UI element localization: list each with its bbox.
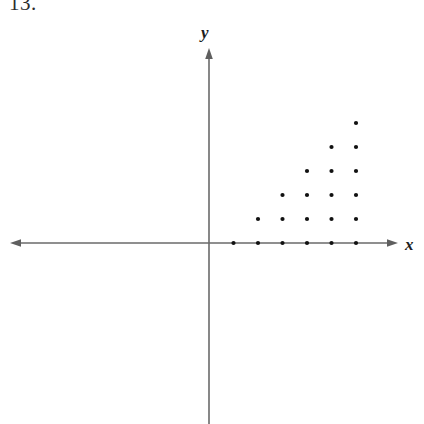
lattice-point — [280, 193, 284, 197]
lattice-point — [256, 217, 260, 221]
y-axis-label: y — [199, 23, 209, 42]
lattice-dots-group — [231, 121, 358, 245]
lattice-point — [305, 241, 309, 245]
lattice-point — [305, 193, 309, 197]
lattice-point — [354, 193, 358, 197]
lattice-point — [329, 145, 333, 149]
lattice-point — [354, 145, 358, 149]
axes-group — [10, 48, 398, 424]
x-axis-label: x — [404, 235, 414, 254]
lattice-point — [329, 169, 333, 173]
lattice-point — [280, 217, 284, 221]
y-axis-top-arrowhead — [205, 48, 213, 59]
lattice-point — [329, 193, 333, 197]
lattice-point — [329, 217, 333, 221]
lattice-point — [354, 241, 358, 245]
math-figure: 13. y x — [0, 0, 424, 424]
lattice-point — [280, 241, 284, 245]
lattice-point — [231, 241, 235, 245]
coordinate-plane-svg: y x — [0, 0, 424, 424]
lattice-point — [305, 169, 309, 173]
lattice-point — [329, 241, 333, 245]
x-axis-left-arrowhead — [10, 239, 21, 247]
lattice-point — [256, 241, 260, 245]
lattice-point — [354, 169, 358, 173]
lattice-point — [354, 121, 358, 125]
lattice-point — [305, 217, 309, 221]
x-axis-right-arrowhead — [387, 239, 398, 247]
lattice-point — [354, 217, 358, 221]
